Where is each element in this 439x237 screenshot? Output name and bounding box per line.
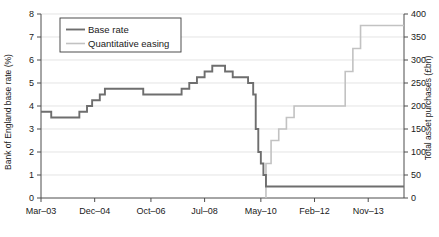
left-axis-tick-label: 6	[29, 55, 34, 65]
chart-legend: Base rate Quantitative easing	[60, 18, 181, 52]
left-axis-tick-label: 5	[29, 78, 34, 88]
right-axis-tick-label: 0	[411, 193, 416, 203]
left-axis-tick-label: 2	[29, 147, 34, 157]
left-axis-tick-label: 0	[29, 193, 34, 203]
x-axis-tick-label: May–10	[245, 206, 277, 216]
left-axis-ticks-group: 012345678	[29, 9, 41, 203]
chart-canvas: 012345678 050100150200250300350400 Mar–0…	[0, 0, 439, 237]
x-axis-tick-label: Dec–04	[79, 206, 110, 216]
x-axis-tick-label: Nov–13	[353, 206, 384, 216]
x-axis-tick-label: Feb–12	[299, 206, 330, 216]
left-axis-tick-label: 7	[29, 32, 34, 42]
legend-label-base-rate: Base rate	[88, 24, 129, 35]
right-axis-title: Total asset purchases (£bn)	[423, 56, 433, 161]
left-axis-tick-label: 8	[29, 9, 34, 19]
left-axis-tick-label: 1	[29, 170, 34, 180]
left-axis-tick-label: 3	[29, 124, 34, 134]
x-axis-tick-label: Jul–08	[191, 206, 218, 216]
left-axis-tick-label: 4	[29, 101, 34, 111]
x-axis-ticks-group: Mar–03Dec–04Oct–06Jul–08May–10Feb–12Nov–…	[26, 198, 384, 216]
chart-figure: 012345678 050100150200250300350400 Mar–0…	[0, 0, 439, 237]
legend-label-quantitative-easing: Quantitative easing	[88, 38, 169, 49]
x-axis-tick-label: Oct–06	[136, 206, 165, 216]
right-axis-tick-label: 400	[411, 9, 426, 19]
right-axis-tick-label: 350	[411, 32, 426, 42]
series-line-base-rate	[41, 66, 404, 187]
x-axis-tick-label: Mar–03	[26, 206, 57, 216]
series-line-quantitative-easing	[266, 26, 404, 199]
right-axis-tick-label: 50	[411, 170, 421, 180]
left-axis-title: Bank of England base rate (%)	[3, 54, 13, 170]
